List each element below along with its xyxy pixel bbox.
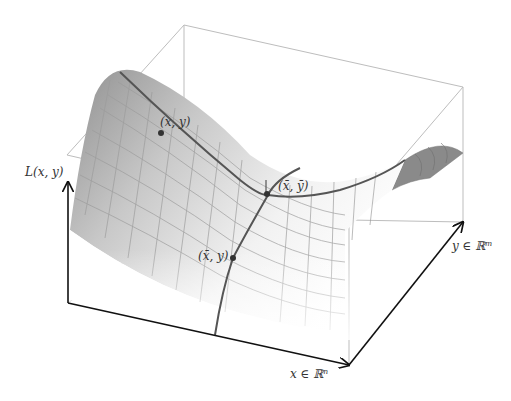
point-xbar-y xyxy=(230,255,236,261)
diagram-canvas xyxy=(0,0,511,401)
point-xbar-ybar xyxy=(264,191,270,197)
y-axis xyxy=(349,222,463,365)
y-axis-label: y ∈ ℝᵐ xyxy=(452,240,493,252)
x-axis-label: x ∈ ℝⁿ xyxy=(290,368,328,380)
saddle-diagram: L(x, y) x ∈ ℝⁿ y ∈ ℝᵐ (x, y) (x̄, ȳ) (x̄… xyxy=(0,0,511,401)
saddle-right-wing xyxy=(392,146,463,190)
point-label-x-y: (x, y) xyxy=(160,116,191,128)
point-label-xbar-ybar: (x̄, ȳ) xyxy=(278,180,309,192)
point-x-y xyxy=(158,130,164,136)
vertical-axis-label: L(x, y) xyxy=(25,166,64,178)
point-label-xbar-y: (x̄, y) xyxy=(198,250,229,262)
